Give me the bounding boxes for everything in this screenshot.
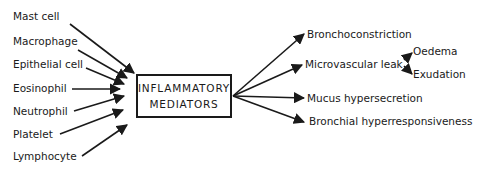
center-line-1: INFLAMMATORY (138, 80, 230, 96)
inflammatory-mediators-box: INFLAMMATORY MEDIATORS (136, 74, 232, 118)
arrow-platelet (60, 110, 123, 134)
effect-bronchial-hyperresponsiveness: Bronchial hyperresponsiveness (309, 115, 472, 127)
center-line-2: MEDIATORS (149, 96, 218, 112)
arrow-lymphocyte (82, 125, 127, 156)
sub-effect-exudation: Exudation (413, 68, 466, 80)
source-mast-cell: Mast cell (13, 10, 60, 22)
arrow-layer (0, 0, 488, 169)
arrow-microvascular-leak (233, 65, 302, 96)
arrow-mucus-hypersecretion (233, 96, 304, 98)
source-epithelial-cell: Epithelial cell (13, 58, 83, 70)
effect-bronchoconstriction: Bronchoconstriction (307, 28, 412, 40)
source-macrophage: Macrophage (13, 35, 78, 47)
arrow-exudation (404, 66, 412, 74)
arrow-neutrophil (74, 96, 124, 111)
effect-mucus-hypersecretion: Mucus hypersecretion (307, 92, 423, 104)
arrow-epithelial-cell (86, 68, 124, 84)
arrow-oedema (404, 53, 412, 60)
source-lymphocyte: Lymphocyte (13, 150, 77, 162)
effect-microvascular-leak: Microvascular leak (305, 58, 403, 70)
arrow-bronchoconstriction (233, 34, 304, 96)
sub-effect-oedema: Oedema (413, 45, 458, 57)
arrow-bronchial-hyperresponsiveness (233, 96, 304, 122)
source-eosinophil: Eosinophil (13, 82, 67, 94)
source-platelet: Platelet (13, 128, 53, 140)
arrow-macrophage (78, 50, 127, 78)
source-neutrophil: Neutrophil (13, 105, 68, 117)
